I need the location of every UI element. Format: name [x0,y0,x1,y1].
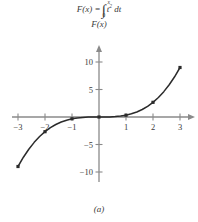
figure-caption: (a) [0,205,198,214]
y-tick-label: −5 [84,140,93,150]
x-tick-label: −1 [67,122,76,132]
x-tick-label: 1 [124,122,128,132]
y-tick-label: 10 [85,57,94,67]
x-tick-label: −2 [40,122,49,132]
x-tick-label: 3 [178,122,182,132]
data-point-marker [16,165,19,168]
x-tick-label: 2 [151,122,155,132]
axes-group [12,45,195,182]
data-point-marker [70,117,73,120]
data-point-marker [151,101,154,104]
plot-area: −3−2−1123−10−5510 [0,0,198,222]
data-point-marker [178,66,181,69]
data-point-marker [97,115,100,118]
figure-container: F(x) =x∫0t2 dt F(x) −3−2−1123−10−5510 (a… [0,0,198,222]
data-point-marker [124,114,127,117]
y-tick-label: −10 [80,167,93,177]
y-tick-label: 5 [89,85,93,95]
x-tick-label: −3 [13,122,22,132]
